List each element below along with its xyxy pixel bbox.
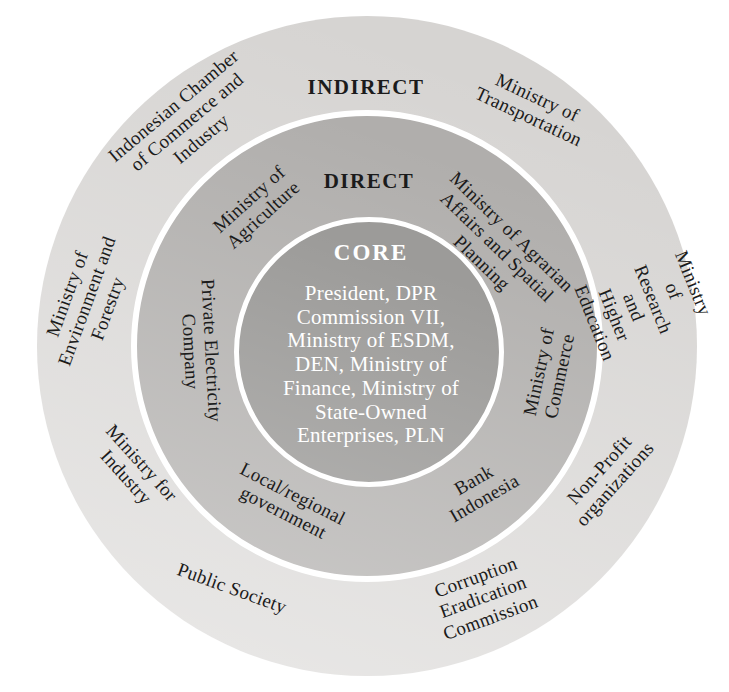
direct-ring-title: DIRECT (324, 170, 415, 194)
stakeholder-rings-diagram: INDIRECT Indonesian Chamber of Commerce … (0, 0, 729, 692)
indirect-ring-title: INDIRECT (307, 76, 424, 100)
label-private-electricity-company: Private Electricity Company (176, 278, 226, 423)
core-members-text: President, DPR Commission VII, Ministry … (283, 282, 459, 448)
core-title: CORE (334, 240, 408, 266)
